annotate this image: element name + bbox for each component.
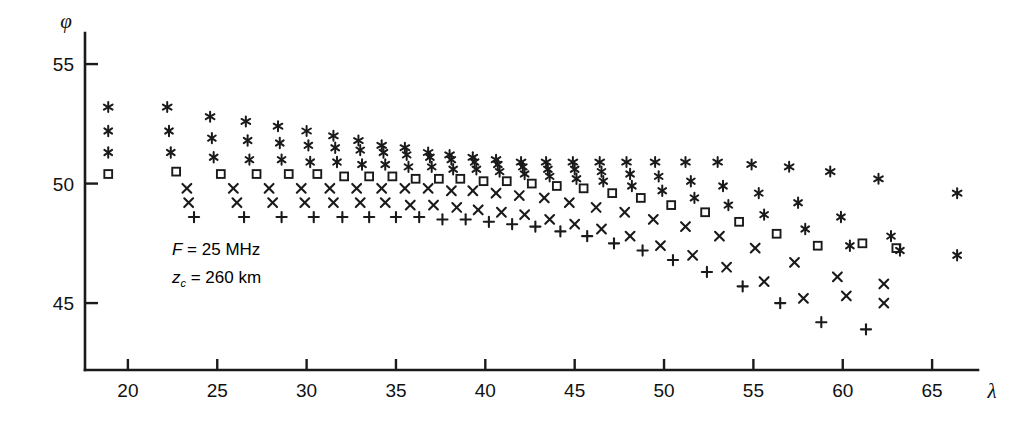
point-plus-4 [337,212,347,222]
point-star-y-20 [687,176,695,186]
point-asterisk-23 [785,162,794,172]
point-square-15 [553,182,561,190]
point-star-y-23 [794,197,802,207]
point-star-i-20 [691,193,699,203]
point-cross-a-22 [833,272,842,281]
point-asterisk-18 [622,157,631,167]
point-cross-a-12 [515,191,524,200]
x-tick-label-30: 30 [296,380,317,401]
point-plus-9 [461,214,471,224]
point-asterisk-3 [242,116,251,126]
point-square-20 [701,208,709,216]
point-asterisk-6 [329,131,338,141]
point-star-i-5 [306,157,314,167]
point-square-5 [313,170,321,178]
point-plus-20 [775,298,785,308]
point-asterisk-9 [401,143,410,153]
point-asterisk-15 [542,157,551,167]
anno-value: = 25 MHz [182,240,260,259]
point-asterisk-1 [163,102,172,112]
annotation-reflection-height: zc = 260 km [172,268,261,289]
point-cross-b-9 [452,203,461,212]
point-star-i-9 [405,162,413,172]
point-cross-b-4 [329,198,338,207]
point-star-i-17 [599,176,607,186]
point-square-18 [637,194,645,202]
point-asterisk-5 [302,126,311,136]
point-cross-a-3 [297,184,306,193]
point-star-y-25 [887,231,895,241]
point-square-21 [735,218,743,226]
point-cross-a-20 [751,244,760,253]
point-asterisk-4 [274,121,283,131]
x-tick-label-65: 65 [922,380,943,401]
point-plus-16 [637,245,647,255]
point-plus-12 [530,221,540,231]
point-star-y-3 [244,135,252,145]
point-cross-a-23 [879,280,888,289]
x-tick-label-40: 40 [475,380,496,401]
anno-value: = 260 km [186,268,261,287]
point-plus-18 [702,267,712,277]
point-star-i-7 [358,159,366,169]
point-square-9 [412,175,420,183]
point-cross-b-13 [545,215,554,224]
point-asterisk-26 [953,188,962,198]
point-cross-a-19 [715,232,724,241]
point-star-i-23 [801,224,809,234]
point-star-i-3 [246,154,254,164]
point-star-y-26 [953,250,961,260]
scatter-plot-canvas: 45505520253035404550556065 λφ [0,0,1023,436]
point-plus-7 [414,212,424,222]
point-plus-3 [309,212,319,222]
point-star-y-0 [104,126,112,136]
point-square-3 [253,170,261,178]
point-star-y-1 [165,126,173,136]
point-square-19 [667,201,675,209]
x-axis-label: λ [986,379,996,403]
point-cross-b-6 [381,198,390,207]
anno-symbol: F [172,240,182,259]
point-star-y-18 [626,169,634,179]
point-asterisk-0 [104,102,113,112]
point-cross-b-16 [626,232,635,241]
point-cross-b-0 [184,198,193,207]
point-asterisk-17 [595,157,604,167]
point-square-7 [365,173,373,181]
point-cross-b-11 [497,208,506,217]
y-tick-label-45: 45 [53,293,74,314]
point-cross-b-23 [879,299,888,308]
point-cross-a-0 [182,184,191,193]
data-marker-layer [104,102,962,334]
point-star-i-22 [760,209,768,219]
y-axis-label: φ [60,9,72,33]
point-cross-a-14 [565,198,574,207]
point-square-2 [217,170,225,178]
series-cross-a [182,184,888,288]
point-square-12 [480,177,488,185]
point-asterisk-24 [826,167,835,177]
point-square-16 [580,184,588,192]
figure-root: 45505520253035404550556065 λφ F = 25 MHz… [0,0,1023,436]
point-cross-a-21 [790,258,799,267]
point-plus-22 [861,324,871,334]
point-star-y-7 [356,145,364,155]
point-cross-a-8 [424,184,433,193]
point-cross-a-18 [681,222,690,231]
point-plus-19 [738,281,748,291]
point-cross-b-3 [300,198,309,207]
point-star-y-4 [276,138,284,148]
axis-layer [85,33,978,370]
point-square-6 [340,173,348,181]
axis-name-layer: λφ [60,9,996,403]
point-plus-13 [555,226,565,236]
point-star-i-4 [278,154,286,164]
point-cross-b-15 [597,225,606,234]
point-cross-b-20 [760,277,769,286]
point-square-10 [435,175,443,183]
point-plus-2 [276,212,286,222]
point-square-8 [388,173,396,181]
point-cross-b-22 [842,292,851,301]
point-cross-b-7 [406,201,415,210]
point-cross-a-13 [540,194,549,203]
